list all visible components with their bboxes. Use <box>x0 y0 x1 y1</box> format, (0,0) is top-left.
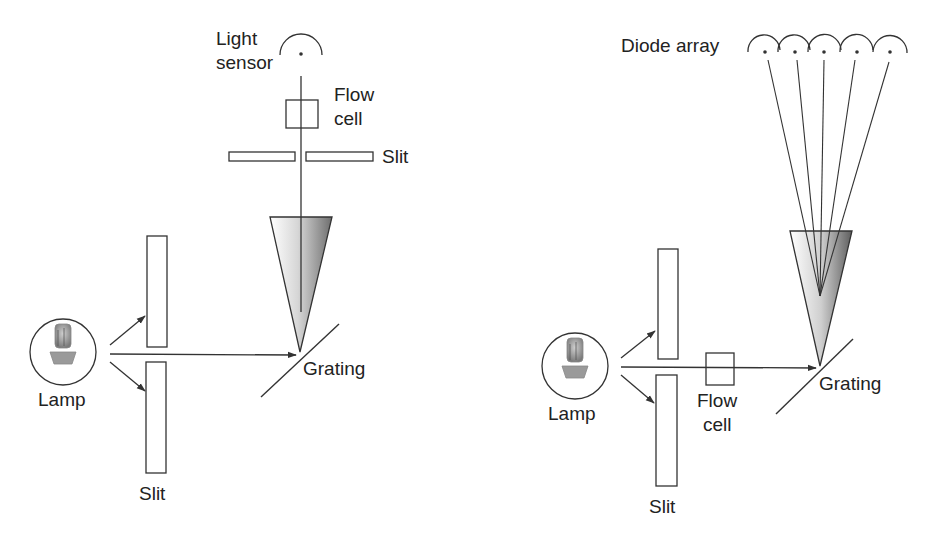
flow-cell-label-line2: cell <box>334 108 363 130</box>
ray-straight <box>621 367 816 368</box>
slit-lower <box>656 375 677 486</box>
slit-label: Slit <box>139 483 165 505</box>
light-sensor-icon <box>280 34 322 56</box>
lamp-label: Lamp <box>548 403 596 425</box>
grating-label: Grating <box>819 373 881 395</box>
slit-lower <box>146 362 166 473</box>
ray-down <box>621 375 654 403</box>
flow-cell-label-line1: Flow <box>334 84 374 106</box>
light-sensor-label-line2: sensor <box>216 52 273 74</box>
top-slit-left <box>229 152 295 161</box>
lamp-icon <box>542 333 608 399</box>
top-slit-label: Slit <box>382 146 408 168</box>
ray-up <box>621 331 655 358</box>
lamp-label: Lamp <box>38 389 86 411</box>
flow-cell <box>286 100 318 128</box>
light-sensor-label-line1: Light <box>216 28 257 50</box>
flow-cell-label-line2: cell <box>703 414 732 436</box>
diode-array-label: Diode array <box>621 35 719 57</box>
slit-label: Slit <box>649 496 675 518</box>
slit-upper <box>658 249 678 359</box>
flow-cell <box>706 353 734 385</box>
ray-straight <box>110 354 296 355</box>
ray-down <box>110 362 145 391</box>
grating-label: Grating <box>303 358 365 380</box>
diode-array-icon <box>748 34 907 53</box>
slit-upper <box>147 236 167 347</box>
ray-up <box>110 316 145 345</box>
flow-cell-label-line1: Flow <box>697 390 737 412</box>
diagram-canvas <box>0 0 930 533</box>
top-slit-right <box>306 152 373 161</box>
lamp-icon <box>30 319 96 385</box>
